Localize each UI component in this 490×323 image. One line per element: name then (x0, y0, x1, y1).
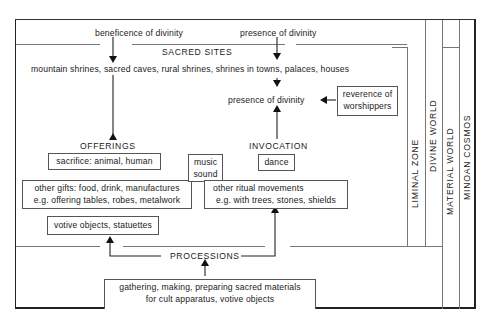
minoan-cosmos-label: MINOAN COSMOS (462, 115, 472, 200)
presence-of-divinity-middle: presence of divinity (228, 95, 305, 106)
dance-box: dance (258, 154, 295, 171)
gathering-materials-box: gathering, making, preparing sacred mate… (104, 279, 316, 309)
votive-objects-text: votive objects, statuettes (54, 220, 152, 230)
divine-world-label: DIVINE WORLD (428, 99, 438, 172)
ritual-movements-line1: other ritual movements (205, 183, 347, 195)
ritual-movements-box: other ritual movements e.g. with trees, … (204, 180, 348, 209)
other-gifts-line1: other gifts: food, drink, manufactures (23, 183, 191, 195)
sacrifice-box: sacrifice: animal, human (48, 153, 161, 170)
sound-line: sound (189, 169, 222, 181)
reverence-of-worshippers-box: reverence of worshippers (337, 86, 398, 116)
gathering-line2: for cult apparatus, votive objects (105, 294, 315, 306)
beneficence-label: beneficence of divinity (95, 28, 183, 39)
reverence-line2: worshippers (338, 101, 397, 113)
invocation-title: INVOCATION (249, 141, 308, 152)
other-gifts-box: other gifts: food, drink, manufactures e… (22, 180, 192, 209)
music-line: music (189, 157, 222, 169)
gathering-line1: gathering, making, preparing sacred mate… (105, 282, 315, 294)
presence-of-divinity-top: presence of divinity (240, 28, 317, 39)
offerings-title: OFFERINGS (80, 141, 136, 152)
sacred-sites-list: mountain shrines, sacred caves, rural sh… (31, 64, 349, 75)
votive-objects-box: votive objects, statuettes (47, 216, 159, 235)
material-world-label: MATERIAL WORLD (445, 127, 455, 215)
dance-text: dance (264, 157, 288, 167)
sacred-sites-title: SACRED SITES (162, 47, 232, 58)
reverence-line1: reverence of (338, 89, 397, 101)
sacrifice-text: sacrifice: animal, human (56, 156, 152, 166)
other-gifts-line2: e.g. offering tables, robes, metalwork (23, 195, 191, 207)
liminal-zone-label: LIMINAL ZONE (410, 139, 420, 208)
music-sound-box: music sound (188, 154, 223, 182)
ritual-movements-line2: e.g. with trees, stones, shields (205, 195, 347, 207)
processions-label: PROCESSIONS (170, 251, 240, 262)
